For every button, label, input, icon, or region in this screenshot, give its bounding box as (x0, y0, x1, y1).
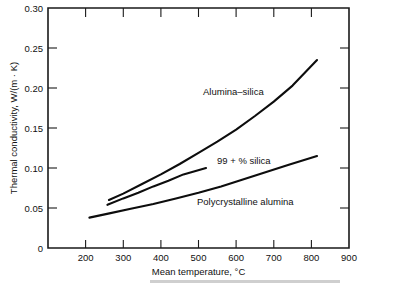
y-tick-label-025: 0.25 (25, 43, 44, 54)
y-tick-label-020: 0.20 (25, 83, 44, 94)
x-tick-label-400: 400 (153, 252, 169, 263)
data-curves (89, 60, 317, 218)
y-tick-label-005: 0.05 (25, 203, 44, 214)
series-label-polycrystalline-alumina: Polycrystalline alumina (197, 196, 294, 207)
axes-border (48, 8, 349, 248)
y-axis-title: Thermal conductivity, W/(m · K) (8, 62, 19, 194)
y-tick-label-0: 0 (38, 243, 43, 254)
plot-frame (48, 8, 349, 248)
x-tick-label-800: 800 (303, 252, 319, 263)
y-tick-label-030: 0.30 (25, 3, 44, 14)
y-tick-label-015: 0.15 (25, 123, 44, 134)
right-axis-ticks (340, 48, 349, 208)
curve-polycrystalline-alumina (89, 156, 317, 218)
x-tick-label-500: 500 (191, 252, 207, 263)
x-tick-label-200: 200 (78, 252, 94, 263)
x-tick-labels: 200 300 400 500 600 700 800 900 (78, 252, 357, 263)
x-tick-label-700: 700 (266, 252, 282, 263)
thermal-conductivity-line-chart: 0.30 0.25 0.20 0.15 0.10 0.05 0 200 300 … (0, 0, 395, 283)
series-label-99-silica: 99 + % silica (217, 155, 271, 166)
y-tick-label-010: 0.10 (25, 163, 44, 174)
y-tick-labels: 0.30 0.25 0.20 0.15 0.10 0.05 0 (25, 3, 44, 254)
curve-alumina-silica (109, 60, 317, 200)
x-tick-label-900: 900 (341, 252, 357, 263)
series-label-alumina-silica: Alumina–silica (203, 86, 264, 97)
x-tick-label-300: 300 (115, 252, 131, 263)
x-tick-label-600: 600 (228, 252, 244, 263)
x-axis-ticks (86, 240, 312, 248)
y-axis-ticks (48, 48, 57, 208)
chart-figure: 0.30 0.25 0.20 0.15 0.10 0.05 0 200 300 … (0, 0, 395, 283)
top-axis-ticks (86, 8, 312, 17)
curve-99-silica (107, 168, 206, 205)
x-axis-title: Mean temperature, °C (152, 266, 246, 277)
